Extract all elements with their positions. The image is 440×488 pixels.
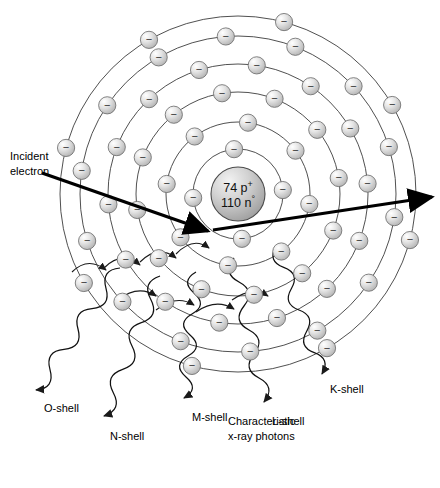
photon-label-o-shell: O-shell — [44, 402, 79, 414]
atom-diagram-canvas: −−−−−−−−−−−−−−−−−−−−−−−−−−−−−−−−−−−−−−−−… — [0, 0, 440, 488]
electron-o-shell-3: − — [386, 209, 403, 226]
electron-n-shell-6: − — [268, 309, 285, 326]
electron-p-shell-7: − — [140, 31, 157, 48]
electron-o-shell-10: − — [73, 162, 90, 179]
svg-text:−: − — [177, 335, 183, 347]
svg-text:−: − — [81, 276, 87, 288]
incident-electron-arrow-in — [42, 173, 208, 231]
electron-o-shell-11: − — [99, 97, 116, 114]
svg-text:−: − — [366, 276, 372, 288]
electron-m-shell-11: − — [165, 106, 182, 123]
electron-m-shell-1: − — [266, 90, 283, 107]
electron-p-shell-1: − — [384, 96, 401, 113]
svg-text:−: − — [171, 108, 177, 120]
svg-text:−: − — [324, 282, 330, 294]
svg-text:−: − — [146, 93, 152, 105]
photon-wave-n-shell — [104, 276, 160, 416]
characteristic-xray-photon-waves — [36, 246, 325, 416]
svg-text:−: − — [299, 267, 305, 279]
electron-n-shell-3: − — [359, 175, 376, 192]
shell-labels-group: O-shellN-shellM-shellL-shellK-shell — [44, 383, 364, 442]
nucleus: 74 p+110 n° — [211, 167, 265, 221]
svg-text:−: − — [254, 59, 260, 71]
electron-p-shell-3: − — [318, 340, 335, 357]
electron-m-shell-3: − — [330, 169, 347, 186]
electron-l-shell-4: − — [273, 243, 290, 260]
electron-n-shell-13: − — [190, 61, 207, 78]
electron-m-shell-6: − — [245, 286, 262, 303]
svg-text:−: − — [155, 51, 161, 63]
electron-o-shell-13: − — [217, 28, 234, 45]
svg-text:−: − — [251, 288, 257, 300]
electron-m-shell-2: − — [309, 121, 326, 138]
svg-text:−: − — [223, 30, 229, 42]
svg-text:−: − — [336, 171, 342, 183]
svg-text:−: − — [356, 234, 362, 246]
svg-text:−: − — [162, 295, 168, 307]
electron-o-shell-5: − — [309, 322, 326, 339]
svg-text:−: − — [219, 87, 225, 99]
photon-label-k-shell: K-shell — [330, 383, 364, 395]
electron-n-shell-4: − — [351, 232, 368, 249]
svg-text:−: − — [391, 211, 397, 223]
electron-o-shell-9: − — [79, 232, 96, 249]
electron-p-shell-6: − — [57, 139, 74, 156]
electron-n-shell-12: − — [141, 91, 158, 108]
svg-text:−: − — [198, 283, 204, 295]
svg-text:−: − — [156, 252, 162, 264]
electron-transition-arrow-7 — [196, 304, 234, 312]
electron-n-shell-9: − — [117, 251, 134, 268]
svg-text:−: − — [177, 231, 183, 243]
svg-text:−: − — [189, 359, 195, 371]
svg-text:−: − — [280, 183, 286, 195]
electron-n-shell-11: − — [108, 139, 125, 156]
svg-text:−: − — [245, 116, 251, 128]
electron-o-shell-2: − — [380, 138, 397, 155]
incident-electron-label-line1: Incident — [10, 150, 49, 162]
svg-text:−: − — [330, 224, 336, 236]
svg-text:−: − — [324, 342, 330, 354]
svg-text:−: − — [389, 98, 395, 110]
electron-l-shell-5: − — [219, 257, 236, 274]
electron-l-shell-8: − — [186, 128, 203, 145]
electron-o-shell-7: − — [172, 333, 189, 350]
electron-m-shell-10: − — [134, 149, 151, 166]
electron-n-shell-1: − — [302, 78, 319, 95]
caption-line1: Characteristic — [228, 415, 296, 427]
electron-o-shell-4: − — [360, 274, 377, 291]
electron-n-shell-2: − — [342, 120, 359, 137]
electron-o-shell-14: − — [287, 38, 304, 55]
electron-o-shell-12: − — [150, 49, 167, 66]
svg-text:−: − — [247, 345, 253, 357]
svg-text:−: − — [163, 177, 169, 189]
svg-text:−: − — [84, 234, 90, 246]
svg-text:−: − — [78, 164, 84, 176]
svg-text:−: − — [225, 259, 231, 271]
svg-text:−: − — [314, 123, 320, 135]
electron-o-shell-8: − — [114, 293, 131, 310]
electron-k-shell-2: − — [274, 181, 291, 198]
svg-text:−: − — [278, 245, 284, 257]
svg-text:−: − — [191, 130, 197, 142]
svg-text:−: − — [104, 99, 110, 111]
atom-diagram-figure: −−−−−−−−−−−−−−−−−−−−−−−−−−−−−−−−−−−−−−−−… — [0, 0, 440, 488]
electron-l-shell-7: − — [158, 175, 175, 192]
svg-text:−: − — [216, 316, 222, 328]
svg-text:−: − — [63, 141, 69, 153]
electron-m-shell-7: − — [193, 281, 210, 298]
electron-p-shell-2: − — [401, 231, 418, 248]
electron-n-shell-7: − — [211, 314, 228, 331]
svg-text:−: − — [292, 40, 298, 52]
electron-k-shell-4: − — [185, 189, 202, 206]
svg-text:−: − — [281, 15, 287, 27]
svg-text:−: − — [190, 191, 196, 203]
svg-text:−: − — [314, 324, 320, 336]
photon-label-m-shell: M-shell — [192, 411, 227, 423]
svg-text:−: − — [274, 311, 280, 323]
electron-l-shell-3: − — [301, 195, 318, 212]
electron-n-shell-5: − — [318, 280, 335, 297]
svg-text:−: − — [350, 80, 356, 92]
svg-text:−: − — [146, 33, 152, 45]
electron-l-shell-1: − — [239, 114, 256, 131]
electron-k-shell-1: − — [225, 141, 242, 158]
